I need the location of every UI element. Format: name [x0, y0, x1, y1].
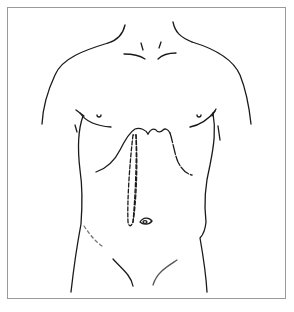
left-clavicle [124, 54, 145, 59]
left-shoulder-outline [42, 43, 108, 124]
left-inguinal-line [113, 259, 133, 286]
umbilicus-center [143, 221, 147, 224]
xiphoid-notch [148, 129, 170, 134]
left-torso-side [71, 116, 83, 292]
left-flank-tick [75, 125, 77, 132]
right-costal-margin [170, 133, 192, 175]
left-costal-margin [96, 128, 148, 172]
right-inguinal-line [153, 260, 177, 285]
right-nipple-icon [197, 115, 201, 117]
torso-illustration [0, 0, 294, 312]
sternal-notch-right [159, 42, 161, 48]
incision-outline-dashed [128, 135, 136, 226]
left-nipple-icon [97, 115, 101, 117]
right-flank-tick [218, 126, 220, 140]
neck-left-line [108, 25, 125, 43]
right-clavicle [158, 53, 176, 59]
right-shoulder-outline [192, 42, 251, 124]
left-axilla-tick [76, 110, 84, 116]
sternal-notch-left [141, 43, 143, 50]
neck-right-line [173, 22, 192, 42]
right-pectoral-line [190, 111, 215, 127]
right-torso-side [200, 113, 214, 292]
left-iliac-dashed [84, 226, 102, 246]
left-pectoral-line [80, 113, 111, 127]
